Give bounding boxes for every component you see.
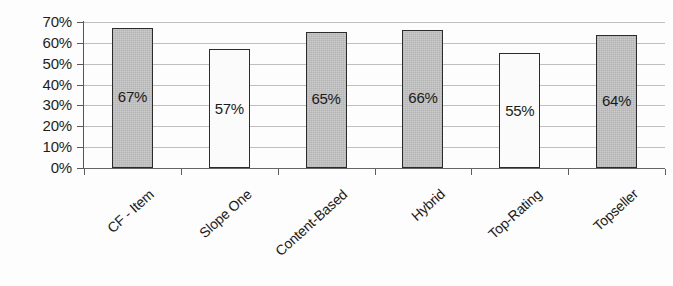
y-axis-labels: 70%60%50%40%30%20%10%0% [0,0,72,286]
bar-value-label: 67% [118,88,147,105]
x-axis-tick [471,169,472,175]
bar-value-label: 57% [215,100,244,117]
x-axis-tick [84,169,85,175]
bar-value-label: 66% [408,89,437,106]
y-axis-tick [77,105,84,106]
bar: 55% [499,53,540,168]
gridline [84,43,665,44]
y-axis-tick-label: 60% [8,35,72,50]
x-axis-category-label: Top-Rating [485,186,545,242]
x-axis-category-label: Topseller [590,186,641,234]
y-axis-tick [77,85,84,86]
x-axis-category-label: Hybrid [408,186,448,224]
gridline [84,64,665,65]
y-axis-tick-label: 20% [8,118,72,133]
bar: 65% [306,32,347,168]
x-axis-tick [665,169,666,175]
x-axis-category-label: Slope One [196,186,255,241]
y-axis-tick-label: 70% [8,14,72,29]
x-axis-tick [568,169,569,175]
x-axis-category-label: Content-Based [272,186,350,259]
x-axis-tick [278,169,279,175]
gridline [84,22,665,23]
bar: 57% [209,49,250,168]
bar: 67% [112,28,153,168]
bar-value-label: 65% [312,90,341,107]
x-axis-tick [181,169,182,175]
bar: 66% [402,30,443,168]
y-axis-tick-label: 50% [8,56,72,71]
plot-area: 67%57%65%66%55%64% [84,22,665,168]
y-axis-tick [77,126,84,127]
bar: 64% [596,35,637,168]
bar-value-label: 55% [505,102,534,119]
gridline [84,147,665,148]
gridline [84,85,665,86]
y-axis-tick [77,43,84,44]
x-axis-tick [375,169,376,175]
gridline [84,105,665,106]
x-axis-category-label: CF - Item [104,186,157,236]
y-axis-tick [77,168,84,169]
y-axis-tick-label: 40% [8,77,72,92]
y-axis-tick [77,147,84,148]
bar-value-label: 64% [602,92,631,109]
gridline [84,126,665,127]
y-axis-tick-label: 30% [8,97,72,112]
y-axis-tick [77,64,84,65]
y-axis-tick-label: 10% [8,139,72,154]
y-axis-tick [77,22,84,23]
y-axis-tick-label: 0% [8,160,72,175]
bar-chart: 70%60%50%40%30%20%10%0% 67%57%65%66%55%6… [0,0,673,286]
